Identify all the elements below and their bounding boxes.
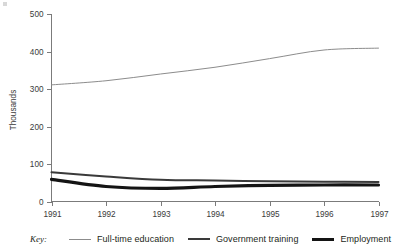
- y-axis-title: Thousands: [9, 90, 18, 131]
- legend-entries: Full-time educationGovernment trainingEm…: [69, 234, 401, 244]
- legend-entry: Government training: [188, 234, 299, 244]
- legend-swatch-icon: [69, 239, 91, 240]
- legend-entry: Employment: [312, 234, 391, 244]
- y-tick-label: 500: [30, 10, 44, 19]
- x-tick-label: 1997: [370, 210, 389, 219]
- series-line-full-time-education: [52, 48, 379, 85]
- y-tick-label: 0: [39, 198, 44, 207]
- legend-label: Full-time education: [97, 234, 174, 244]
- legend-key-label: Key:: [30, 234, 47, 244]
- x-tick-label: 1992: [97, 210, 116, 219]
- y-tick-label: 300: [30, 85, 44, 94]
- x-tick-label: 1995: [261, 210, 280, 219]
- series-line-government-training: [52, 172, 379, 182]
- x-tick-label: 1994: [206, 210, 225, 219]
- legend-swatch-icon: [312, 238, 334, 241]
- y-tick-label: 100: [30, 160, 44, 169]
- x-axis-ticks: 1991199219931994199519961997: [43, 202, 389, 219]
- chart-legend: Key: Full-time educationGovernment train…: [0, 231, 401, 247]
- legend-swatch-icon: [188, 238, 210, 240]
- x-tick-label: 1991: [43, 210, 62, 219]
- chart-plot-area: Thousands 0100200300400500 1991199219931…: [0, 0, 401, 230]
- legend-label: Government training: [216, 234, 299, 244]
- y-tick-label: 200: [30, 123, 44, 132]
- line-chart-figure: Thousands 0100200300400500 1991199219931…: [0, 0, 401, 252]
- data-series-group: [52, 48, 379, 188]
- x-tick-label: 1996: [315, 210, 334, 219]
- x-tick-label: 1993: [152, 210, 171, 219]
- y-axis-ticks: 0100200300400500: [30, 10, 52, 207]
- legend-label: Employment: [340, 234, 391, 244]
- y-tick-label: 400: [30, 48, 44, 57]
- legend-entry: Full-time education: [69, 234, 174, 244]
